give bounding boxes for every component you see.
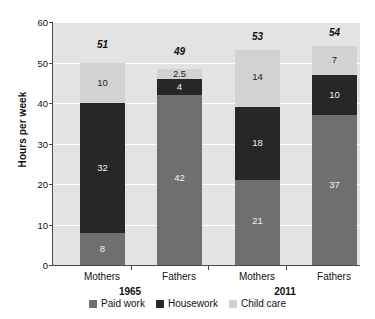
y-tick-label-30: 30 [24,138,48,149]
x-tick-mark-2 [208,266,209,270]
y-tick-label-20: 20 [24,179,48,190]
gridline-60 [53,22,360,23]
plot-area: 51 10 32 8 49 2.5 4 42 5 [52,22,360,266]
bar-segment-child-care: 14 [235,50,280,107]
bar-segment-housework: 18 [235,107,280,180]
bar-segment-label: 37 [312,180,357,190]
bar-segment-label: 10 [312,90,357,100]
y-tick-label-50: 50 [24,57,48,68]
legend-item-child-care[interactable]: Child care [229,298,286,309]
y-tick-mark-10 [49,225,53,226]
y-tick-mark-0 [49,265,53,266]
x-category-label-fathers-2011: Fathers [289,271,375,282]
bar-total-label: 53 [235,31,280,42]
y-tick-mark-60 [49,22,53,23]
x-group-label-2011: 2011 [225,286,345,297]
y-tick-mark-30 [49,144,53,145]
x-tick-mark-1 [131,266,132,270]
bar-total-label: 54 [312,27,357,38]
bar-segment-label: 10 [80,78,125,88]
y-tick-label-60: 60 [24,17,48,28]
chart-legend: Paid work Housework Child care [0,298,375,309]
legend-swatch-icon [89,300,97,308]
bar-segment-label: 4 [157,82,202,92]
legend-item-housework[interactable]: Housework [156,298,218,309]
bar-segment-paid-work: 42 [157,95,202,265]
legend-swatch-icon [156,300,164,308]
x-tick-mark-3 [286,266,287,270]
y-tick-label-10: 10 [24,219,48,230]
legend-item-paid-work[interactable]: Paid work [89,298,145,309]
y-tick-mark-40 [49,103,53,104]
bar-segment-child-care: 2.5 [157,69,202,79]
legend-label: Housework [168,298,218,309]
bar-segment-label: 42 [157,173,202,183]
bar-total-label: 49 [157,46,202,57]
bar-total-label: 51 [80,39,125,50]
y-tick-mark-20 [49,184,53,185]
bar-segment-label: 8 [80,244,125,254]
bar-segment-label: 21 [235,216,280,226]
bar-segment-paid-work: 21 [235,180,280,265]
y-tick-label-40: 40 [24,98,48,109]
bar-segment-housework: 32 [80,103,125,233]
y-tick-mark-50 [49,63,53,64]
x-category-label-fathers-1965: Fathers [134,271,224,282]
x-group-label-1965: 1965 [70,286,190,297]
y-tick-label-0: 0 [24,260,48,271]
bar-segment-label: 14 [235,72,280,82]
bar-segment-paid-work: 8 [80,233,125,265]
bar-segment-child-care: 7 [312,46,357,74]
bar-segment-label: 18 [235,138,280,148]
legend-swatch-icon [229,300,237,308]
bar-segment-label: 32 [80,163,125,173]
bar-segment-paid-work: 37 [312,115,357,265]
bar-segment-label: 2.5 [157,69,202,79]
bar-segment-housework: 4 [157,79,202,95]
bar-segment-child-care: 10 [80,63,125,104]
stacked-bar-chart: Hours per week 51 10 32 8 [0,0,375,319]
legend-label: Paid work [101,298,145,309]
bar-segment-label: 7 [312,55,357,65]
legend-label: Child care [241,298,286,309]
bar-segment-housework: 10 [312,75,357,116]
